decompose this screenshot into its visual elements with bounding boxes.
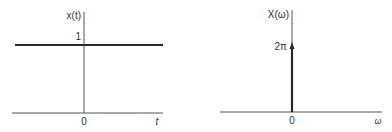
frequency-domain-plot: X(ω) 2π 0 ω: [220, 9, 382, 126]
level-label: 1: [75, 31, 81, 42]
freq-x-axis-label: ω: [374, 116, 381, 126]
impulse-label: 2π: [275, 41, 288, 52]
time-domain-plot: x(t) 1 0 t: [12, 10, 163, 127]
time-y-axis-label: x(t): [67, 10, 81, 21]
time-origin-label: 0: [81, 116, 87, 127]
time-x-axis-label: t: [156, 116, 160, 127]
fourier-pair-diagram: x(t) 1 0 t X(ω) 2π 0 ω: [0, 0, 392, 132]
freq-origin-label: 0: [289, 115, 295, 126]
freq-y-axis-label: X(ω): [268, 9, 289, 20]
impulse-arrow-icon: [290, 42, 295, 49]
